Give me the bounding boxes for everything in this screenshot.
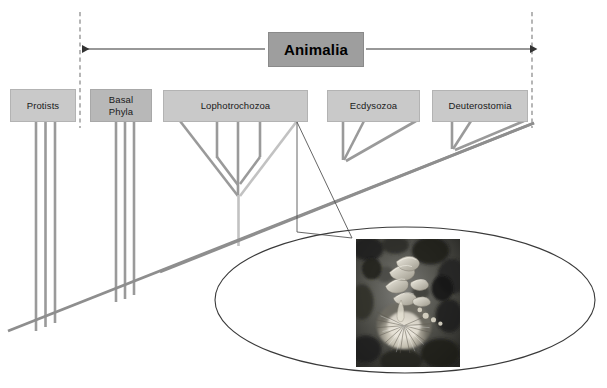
- clade-box-ecdysozoa[interactable]: Ecdysozoa: [327, 90, 420, 122]
- fan-worm-illustration: [356, 239, 460, 367]
- clade-label-protists: Protists: [27, 100, 59, 112]
- tip-branch: [240, 157, 260, 184]
- clade-branches-ecdysozoa: [343, 121, 416, 161]
- clade-label-basal-phyla: Basal Phyla: [109, 94, 133, 117]
- clade-label-deuterostomia: Deuterostomia: [448, 100, 511, 112]
- clade-branches-protists: [36, 121, 55, 331]
- clade-box-basal-phyla[interactable]: Basal Phyla: [90, 89, 152, 122]
- clade-box-deuterostomia[interactable]: Deuterostomia: [432, 90, 528, 122]
- clade-label-ecdysozoa: Ecdysozoa: [350, 100, 397, 112]
- callout-leader-base: [297, 232, 352, 238]
- callout-photo-marine-fan-worm[interactable]: [355, 238, 461, 368]
- clade-branches-deuterostomia: [452, 121, 524, 150]
- tip-branch: [240, 121, 297, 196]
- tip-branch: [346, 121, 416, 161]
- animalia-label: Animalia: [284, 41, 348, 58]
- clade-box-lophotrochozoa[interactable]: Lophotrochozoa: [163, 90, 308, 122]
- clade-branches-basal-phyla: [116, 121, 134, 302]
- clade-branches-lophotrochozoa: [180, 121, 297, 246]
- clade-label-lophotrochozoa: Lophotrochozoa: [201, 100, 271, 112]
- tip-branch: [180, 121, 238, 196]
- clade-box-protists[interactable]: Protists: [10, 89, 76, 122]
- tip-branch: [344, 121, 364, 160]
- animalia-header-box: Animalia: [268, 32, 364, 67]
- figure-canvas: Animalia Protists Basal Phyla Lophotroch…: [0, 0, 607, 388]
- tip-branch: [455, 121, 524, 150]
